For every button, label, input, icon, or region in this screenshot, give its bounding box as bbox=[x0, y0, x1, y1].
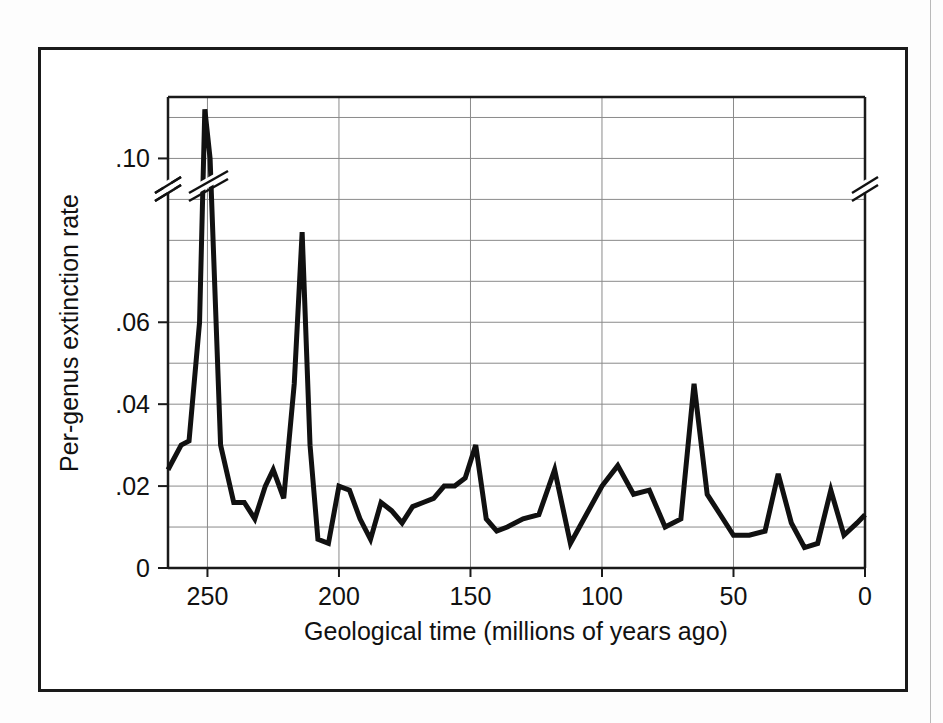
chart-area: 0.02.04.06.10 250200150100500 Geological… bbox=[0, 0, 943, 723]
x-axis-tick-label: 200 bbox=[318, 582, 360, 610]
x-axis-ticks bbox=[207, 568, 865, 577]
y-axis-tick-labels: 0.02.04.06.10 bbox=[115, 144, 150, 582]
y-axis-ticks bbox=[158, 158, 168, 568]
extinction-rate-line-chart: 0.02.04.06.10 250200150100500 Geological… bbox=[0, 0, 943, 723]
x-axis-tick-label: 150 bbox=[450, 582, 492, 610]
y-axis-tick-label: .04 bbox=[115, 390, 150, 418]
x-axis-title: Geological time (millions of years ago) bbox=[304, 617, 728, 645]
x-axis-tick-label: 100 bbox=[581, 582, 623, 610]
y-axis-tick-label: 0 bbox=[136, 554, 150, 582]
y-axis-tick-label: .10 bbox=[115, 144, 150, 172]
x-axis-tick-label: 0 bbox=[858, 582, 872, 610]
y-axis-tick-label: .06 bbox=[115, 308, 150, 336]
figure-page: 0.02.04.06.10 250200150100500 Geological… bbox=[0, 0, 943, 723]
x-axis-tick-label: 50 bbox=[720, 582, 748, 610]
x-axis-tick-labels: 250200150100500 bbox=[187, 582, 872, 610]
y-axis-title: Per-genus extinction rate bbox=[55, 194, 83, 472]
y-axis-tick-label: .02 bbox=[115, 472, 150, 500]
x-axis-tick-label: 250 bbox=[187, 582, 229, 610]
plot-background bbox=[168, 97, 865, 568]
